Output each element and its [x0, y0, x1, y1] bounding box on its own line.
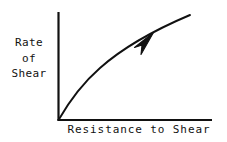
y-axis-label-line-1: Rate [4, 35, 54, 51]
rheogram-figure: Rate of Shear Resistance to Shear [0, 0, 227, 142]
y-axis-label-line-2: of [4, 51, 54, 67]
x-axis-label: Resistance to Shear [55, 123, 223, 137]
direction-arrowhead-icon [135, 33, 154, 55]
y-axis-label: Rate of Shear [4, 35, 54, 82]
y-axis-label-line-3: Shear [4, 66, 54, 82]
flow-curve [59, 15, 191, 120]
